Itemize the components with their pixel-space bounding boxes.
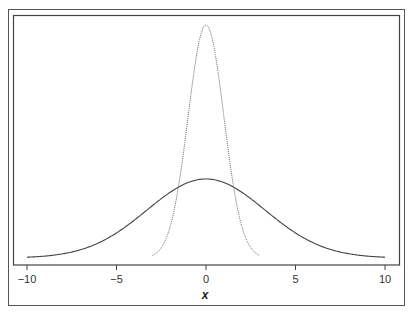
- plot-area-frame: [14, 16, 400, 266]
- x-axis-ticks: [27, 265, 385, 270]
- density-chart: −10 −5 0 5 10 x: [0, 0, 411, 312]
- x-tick-label-10: 10: [379, 273, 391, 285]
- x-tick-label-neg10: −10: [18, 273, 37, 285]
- narrow-density-curve-dotted: [152, 25, 259, 255]
- x-axis: −10 −5 0 5 10 x: [18, 265, 391, 302]
- x-tick-label-0: 0: [203, 273, 209, 285]
- x-tick-label-neg5: −5: [110, 273, 123, 285]
- outer-frame: [9, 10, 405, 306]
- x-axis-title: x: [201, 288, 210, 302]
- x-tick-label-5: 5: [292, 273, 298, 285]
- wide-density-curve-solid: [27, 179, 385, 257]
